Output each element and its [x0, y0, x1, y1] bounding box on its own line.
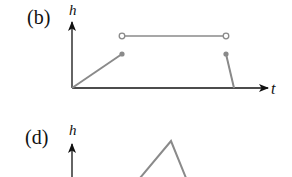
- panel-d-label: (d): [25, 126, 48, 149]
- panel-b-label: (b): [27, 6, 50, 29]
- panel-b-open-point-left: [119, 33, 125, 39]
- panel-b-x-axis-label: t: [271, 80, 276, 97]
- panel-d-triangle-curve: [140, 141, 186, 177]
- panel-d: (d) h: [25, 122, 186, 177]
- panel-b-fall-segment: [226, 54, 234, 88]
- panel-b: (b) h t: [27, 2, 276, 97]
- panel-d-y-axis-label: h: [69, 122, 77, 138]
- figure: (b) h t (d) h: [0, 0, 292, 177]
- panel-b-y-axis-label: h: [69, 2, 77, 18]
- panel-b-filled-point-left: [119, 51, 124, 56]
- panel-b-rise-segment: [72, 54, 122, 88]
- panel-b-open-point-right: [223, 33, 229, 39]
